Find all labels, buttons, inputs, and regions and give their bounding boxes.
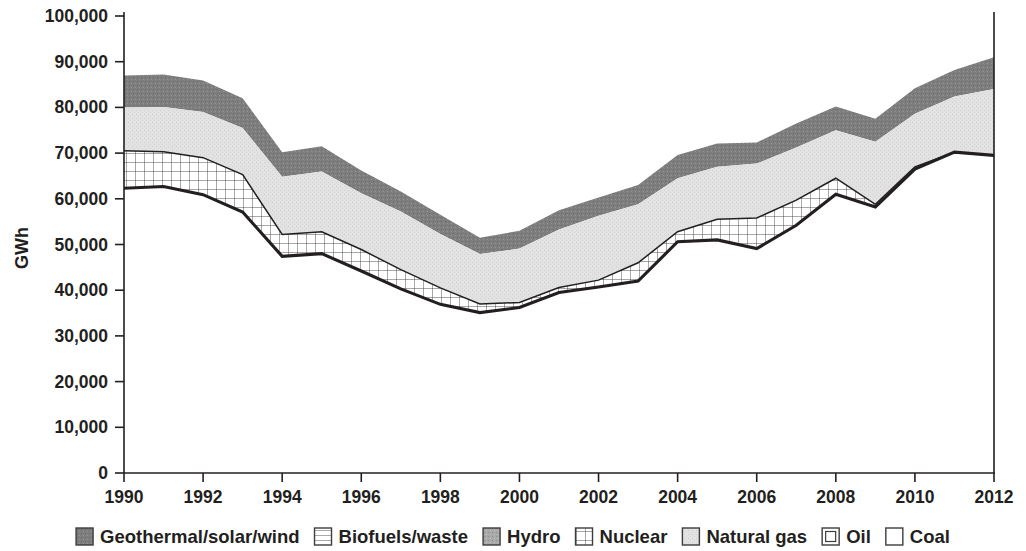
- legend-label: Geothermal/solar/wind: [100, 526, 299, 547]
- y-axis-tick-labels: 010,00020,00030,00040,00050,00060,00070,…: [45, 6, 109, 483]
- y-axis-tick-label: 10,000: [54, 417, 108, 437]
- legend-swatch-light-gray-swatch: [682, 528, 699, 545]
- y-axis-tick-label: 0: [98, 463, 108, 483]
- y-axis-ticks: [115, 16, 124, 473]
- legend-swatch-white-swatch: [886, 528, 903, 545]
- legend-swatch-dark-solid-swatch: [76, 528, 93, 545]
- x-axis-tick-label: 1996: [342, 487, 381, 507]
- y-axis-tick-label: 40,000: [54, 280, 108, 300]
- legend-swatch-horizontal-lines-swatch: [315, 528, 332, 545]
- x-axis-tick-label: 1998: [421, 487, 460, 507]
- legend-item: Hydro: [483, 526, 560, 547]
- legend-item: Coal: [886, 526, 950, 547]
- y-axis-tick-label: 60,000: [54, 189, 108, 209]
- legend-label: Nuclear: [600, 526, 668, 547]
- legend-item: Geothermal/solar/wind: [76, 526, 299, 547]
- stacked-area-chart: 010,00020,00030,00040,00050,00060,00070,…: [0, 0, 1026, 551]
- x-axis-tick-label: 2008: [816, 487, 855, 507]
- y-axis-tick-label: 30,000: [54, 326, 108, 346]
- y-axis-tick-label: 90,000: [54, 52, 108, 72]
- chart-figure: 010,00020,00030,00040,00050,00060,00070,…: [0, 0, 1026, 551]
- y-axis-tick-label: 100,000: [45, 6, 109, 26]
- legend-swatch-crosshatch-swatch: [576, 528, 593, 545]
- legend-label: Coal: [910, 526, 950, 547]
- y-axis-tick-label: 50,000: [54, 235, 108, 255]
- x-axis-tick-label: 2010: [895, 487, 934, 507]
- x-axis-tick-label: 1994: [263, 487, 302, 507]
- legend-label: Natural gas: [706, 526, 807, 547]
- legend-item: Oil: [822, 526, 871, 547]
- plot-area: [124, 57, 994, 473]
- legend-item: Nuclear: [576, 526, 668, 547]
- x-axis-tick-label: 1992: [184, 487, 223, 507]
- x-axis-tick-label: 1990: [105, 487, 144, 507]
- x-axis-tick-label: 2006: [737, 487, 776, 507]
- x-axis-tick-label: 2000: [500, 487, 539, 507]
- x-axis-tick-label: 2012: [975, 487, 1014, 507]
- y-axis-tick-label: 70,000: [54, 143, 108, 163]
- legend-label: Hydro: [507, 526, 560, 547]
- x-axis-tick-label: 2004: [658, 487, 697, 507]
- x-axis-ticks: [124, 473, 994, 482]
- x-axis-tick-label: 2002: [579, 487, 618, 507]
- legend-item: Natural gas: [682, 526, 807, 547]
- chart-legend: Geothermal/solar/windBiofuels/wasteHydro…: [76, 526, 950, 547]
- legend-item: Biofuels/waste: [315, 526, 469, 547]
- legend-swatch-framed-box-swatch: [822, 528, 839, 545]
- y-axis-tick-label: 80,000: [54, 97, 108, 117]
- y-axis-title: GWh: [12, 227, 32, 269]
- y-axis-tick-label: 20,000: [54, 372, 108, 392]
- x-axis-tick-labels: 1990199219941996199820002002200420062008…: [105, 487, 1014, 507]
- legend-label: Oil: [846, 526, 871, 547]
- legend-label: Biofuels/waste: [339, 526, 469, 547]
- legend-swatch-medium-gray-swatch: [483, 528, 500, 545]
